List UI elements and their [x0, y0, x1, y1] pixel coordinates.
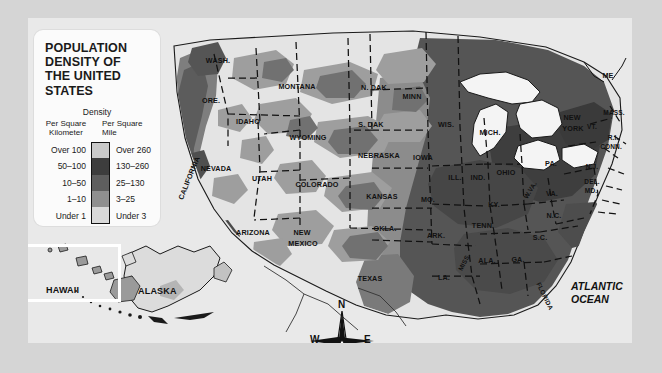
legend-density-heading: Density	[34, 107, 160, 117]
legend-color-swatch	[91, 191, 110, 207]
state-label: VT.	[587, 123, 597, 130]
map-page: WASH.ORE.IDAHOMONTANAWYOMINGNEVADAUTAHCO…	[0, 0, 662, 373]
state-label: IND.	[471, 173, 486, 182]
state-label: R.I.	[608, 134, 619, 141]
state-label: ORE.	[202, 96, 220, 105]
state-label: MO.	[421, 195, 435, 204]
state-label: MINN	[403, 92, 422, 101]
state-label: KANSAS	[366, 192, 397, 201]
legend-class-per-mile: Over 260	[110, 145, 160, 155]
legend-class-row: Over 100Over 260	[34, 142, 160, 158]
legend-class-row: 1–103–25	[34, 191, 160, 207]
legend-color-swatch	[91, 175, 110, 191]
state-label: ME	[602, 71, 613, 80]
map-legend: POPULATION DENSITY OF THE UNITED STATES …	[34, 30, 160, 226]
legend-class-row: 50–100130–260	[34, 158, 160, 174]
legend-class-row: Under 1Under 3	[34, 207, 160, 223]
state-label: MASS.	[603, 109, 624, 116]
state-label: S. DAK	[358, 120, 383, 129]
ocean-line-1: ATLANTIC	[571, 280, 623, 293]
legend-title-line-1: POPULATION	[45, 41, 160, 55]
state-label: N.J.	[586, 163, 599, 170]
state-label: OHIO	[497, 168, 516, 177]
atlantic-ocean-label: ATLANTIC OCEAN	[571, 280, 623, 305]
state-label: COLORADO	[295, 180, 338, 189]
state-label: ALA.	[478, 256, 495, 265]
state-label: MICH.	[479, 128, 500, 137]
legend-class-per-mile: 25–130	[110, 178, 160, 188]
alaska-inset-label: ALASKA	[138, 286, 177, 296]
state-label: GA.	[511, 255, 524, 264]
legend-scale: Over 100Over 26050–100130–26010–5025–130…	[34, 142, 160, 230]
state-label: ARK.	[427, 231, 445, 240]
legend-class-per-km: Over 100	[34, 145, 91, 155]
state-label: WYOMING	[290, 133, 327, 142]
state-label: VA.	[546, 189, 558, 198]
state-label: NEW	[563, 113, 580, 122]
state-label: UTAH	[252, 174, 272, 183]
state-label: NEW	[293, 228, 310, 237]
unit-mi-line-2: Mile	[102, 128, 152, 137]
legend-color-swatch	[91, 142, 110, 158]
state-label: LA.	[438, 273, 450, 282]
compass-north-label: N	[338, 299, 345, 310]
hawaii-inset-label: HAWAII	[46, 285, 79, 295]
compass-east-label: E	[364, 334, 371, 343]
compass-rose: N S E W	[304, 301, 380, 343]
legend-unit-mile: Per Square Mile	[102, 119, 152, 137]
legend-class-per-km: 50–100	[34, 161, 91, 171]
state-label: PA.	[545, 159, 557, 168]
legend-color-swatch	[91, 207, 110, 223]
unit-km-line-2: Kilometer	[41, 128, 91, 137]
legend-class-per-km: 1–10	[34, 194, 91, 204]
legend-unit-kilometer: Per Square Kilometer	[41, 119, 91, 137]
unit-km-line-1: Per Square	[41, 119, 91, 128]
state-label: MD.	[585, 187, 597, 194]
ocean-line-2: OCEAN	[571, 293, 623, 306]
state-label: IOWA	[413, 153, 433, 162]
state-label: TEXAS	[358, 274, 383, 283]
legend-class-per-km: Under 1	[34, 211, 91, 221]
state-label: MEXICO	[288, 239, 317, 248]
legend-class-per-mile: 3–25	[110, 194, 160, 204]
compass-west-label: W	[310, 334, 319, 343]
state-label: TENN.	[472, 221, 494, 230]
state-label: IDAHO	[236, 117, 260, 126]
state-label: S.C.	[533, 233, 548, 242]
state-label: KY.	[488, 200, 500, 209]
state-label: WASH.	[206, 56, 230, 65]
state-label: N.C.	[547, 211, 562, 220]
state-label: OKLA.	[373, 224, 396, 233]
legend-title-line-2: DENSITY OF	[45, 55, 160, 69]
unit-mi-line-1: Per Square	[102, 119, 152, 128]
legend-color-swatch	[91, 158, 110, 174]
state-label: NEVADA	[201, 164, 232, 173]
state-label: ILL.	[448, 173, 461, 182]
legend-class-row: 10–5025–130	[34, 175, 160, 191]
legend-class-per-mile: Under 3	[110, 211, 160, 221]
state-label: YORK	[562, 124, 583, 133]
state-label: DEL.	[584, 178, 599, 185]
legend-class-per-km: 10–50	[34, 178, 91, 188]
legend-title-line-3: THE UNITED	[45, 69, 160, 83]
state-label: MONTANA	[278, 82, 315, 91]
state-label: ARIZONA	[236, 228, 270, 237]
state-label: WIS.	[438, 120, 454, 129]
legend-title: POPULATION DENSITY OF THE UNITED STATES	[34, 30, 160, 98]
state-label: N. DAK.	[361, 83, 389, 92]
legend-title-line-4: STATES	[45, 84, 160, 98]
state-label: CONN.	[600, 143, 622, 150]
state-label: NEBRASKA	[358, 151, 400, 160]
legend-unit-row: Per Square Kilometer Per Square Mile	[34, 117, 160, 137]
legend-class-per-mile: 130–260	[110, 161, 160, 171]
